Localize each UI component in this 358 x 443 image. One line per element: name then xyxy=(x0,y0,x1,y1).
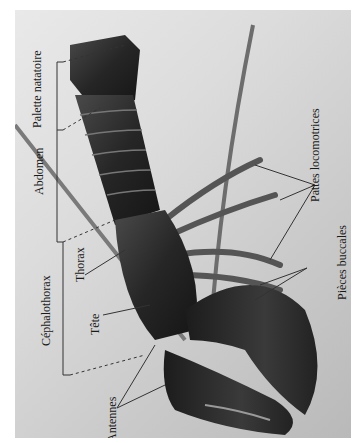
label-tete: Tête xyxy=(89,314,101,335)
label-pattes-locomotrices: Pattes locomotrices xyxy=(309,108,321,202)
label-thorax: Thorax xyxy=(74,247,86,282)
label-palette-natatoire: Palette natatoire xyxy=(31,50,43,128)
label-abdomen: Abdomen xyxy=(33,148,45,195)
lobster-diagram: Palette natatoire Abdomen Céphalothorax … xyxy=(15,10,351,438)
label-cephalothorax: Céphalothorax xyxy=(40,275,52,346)
label-antennes: Antennes xyxy=(106,397,118,438)
label-pieces-buccales: Pièces buccales xyxy=(336,225,348,300)
tail-fan xyxy=(70,35,140,105)
lobster-illustration xyxy=(15,10,351,438)
